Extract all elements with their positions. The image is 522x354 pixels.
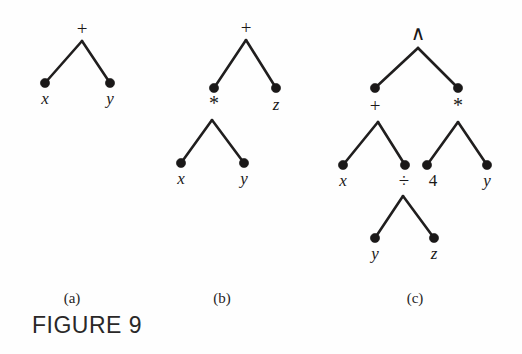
node-label-leaf-y-right: y (481, 171, 491, 190)
node-label-mul-node: * (209, 92, 219, 114)
tree-node-dot (429, 233, 438, 242)
node-label-leaf-four: 4 (429, 171, 438, 190)
figure-page: +xy+*zxy∧+*x÷4yyz(a)(b)(c) FIGURE 9 (0, 0, 522, 354)
tree-edge (418, 48, 458, 88)
tree-edge (343, 122, 378, 165)
tree-node-dot (422, 160, 431, 169)
panel-caption-a: (a) (64, 290, 81, 307)
node-label-leaf-y-bottom: y (369, 244, 379, 263)
node-label-root: ∧ (411, 22, 426, 44)
node-label-leaf-z-bottom: z (430, 244, 438, 263)
tree-edge (45, 41, 82, 83)
node-label-leaf-left: x (40, 89, 49, 108)
tree-node-dot (453, 83, 462, 92)
node-label-plus-node: + (370, 95, 381, 116)
tree-node-dot (105, 78, 114, 87)
tree-edge (212, 120, 244, 163)
tree-node-dot (400, 160, 409, 169)
tree-node-dot (338, 160, 347, 169)
tree-edge (427, 122, 458, 165)
tree-a: +xy (40, 18, 114, 108)
node-label-leaf-x: x (338, 171, 347, 190)
tree-node-dot (271, 83, 280, 92)
node-label-mul-node: * (453, 94, 463, 116)
tree-node-dot (239, 158, 248, 167)
expression-trees-figure: +xy+*zxy∧+*x÷4yyz(a)(b)(c) (0, 0, 522, 354)
tree-edge (181, 120, 212, 163)
tree-edge (378, 122, 405, 165)
tree-node-dot (176, 158, 185, 167)
tree-edge (214, 40, 246, 88)
tree-node-dot (482, 160, 491, 169)
tree-b: +*zxy (176, 17, 280, 188)
tree-edge (246, 40, 276, 88)
tree-edge (403, 196, 434, 238)
tree-node-dot (370, 83, 379, 92)
node-label-root: + (77, 18, 88, 39)
node-label-root: + (241, 17, 252, 38)
panel-caption-b: (b) (213, 290, 231, 307)
node-label-leaf-right: y (104, 89, 114, 108)
panel-caption-c: (c) (407, 290, 424, 307)
tree-node-dot (370, 233, 379, 242)
node-label-div-node: ÷ (399, 170, 409, 191)
node-label-leaf-y: y (238, 169, 248, 188)
tree-edge (82, 41, 110, 83)
figure-caption: FIGURE 9 (32, 312, 142, 339)
node-label-leaf-x: x (176, 169, 185, 188)
tree-edge (375, 48, 418, 88)
node-label-leaf-z: z (272, 95, 280, 114)
tree-edge (458, 122, 487, 165)
tree-edge (375, 196, 403, 238)
tree-c: ∧+*x÷4yyz (338, 22, 491, 263)
tree-node-dot (40, 78, 49, 87)
